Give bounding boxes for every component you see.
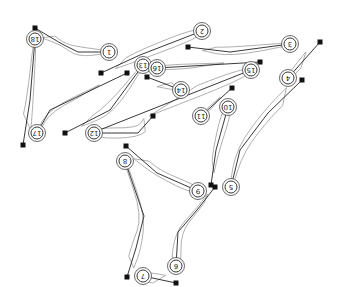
hole-number: 17 (33, 129, 42, 137)
hole-line-1 (35, 28, 109, 52)
green-hole-10: 10 (220, 99, 237, 116)
fairway-outline-hole-1 (42, 36, 109, 56)
tee-marker-13 (63, 131, 68, 136)
hole-line-13 (65, 65, 143, 133)
hole-number: 4 (285, 74, 290, 82)
green-hole-6: 6 (168, 258, 185, 275)
course-layout-svg: 123456789101112131415161718 (0, 0, 338, 287)
hole-number: 7 (141, 272, 145, 280)
tee-marker-5 (300, 78, 305, 83)
green-hole-2: 2 (194, 23, 211, 40)
hole-number: 5 (229, 183, 233, 191)
green-hole-3: 3 (282, 36, 299, 53)
golf-course-map: 123456789101112131415161718 (0, 0, 338, 287)
tee-markers (21, 26, 323, 286)
green-hole-14: 14 (173, 82, 190, 99)
green-hole-15: 15 (243, 62, 260, 79)
green-hole-12: 12 (86, 125, 103, 142)
tee-marker-10 (209, 183, 214, 188)
fairway-outline-hole-6 (172, 194, 207, 266)
tee-marker-16 (258, 60, 263, 65)
fairway-outline-hole-3 (203, 43, 291, 54)
hole-number: 15 (247, 66, 256, 74)
hole-number: 13 (139, 61, 148, 69)
tee-marker-11 (230, 86, 235, 91)
tee-marker-4 (318, 40, 323, 45)
green-hole-7: 7 (135, 268, 152, 285)
tee-marker-9 (124, 144, 129, 149)
hole-number: 10 (224, 103, 233, 111)
hole-number: 8 (123, 157, 127, 165)
hole-line-10 (211, 107, 228, 185)
hole-line-8 (125, 161, 144, 277)
hole-lines (23, 28, 320, 283)
green-hole-17: 17 (29, 125, 46, 142)
tee-marker-3 (186, 45, 191, 50)
hole-number: 6 (173, 262, 178, 270)
hole-number: 3 (288, 40, 292, 48)
green-hole-8: 8 (117, 153, 134, 170)
fairway-outline-hole-13 (82, 65, 144, 126)
green-hole-5: 5 (223, 179, 240, 196)
green-hole-4: 4 (280, 70, 297, 87)
hole-number: 18 (31, 35, 40, 43)
hole-number: 14 (176, 86, 185, 94)
tee-marker-18 (21, 143, 26, 148)
fairway-outline-hole-8 (125, 161, 144, 268)
green-hole-9: 9 (190, 183, 207, 200)
hole-number: 1 (107, 48, 111, 56)
fairway-outline-hole-10 (212, 107, 230, 173)
green-hole-1: 1 (101, 44, 118, 61)
green-hole-18: 18 (27, 31, 44, 48)
green-hole-16: 16 (149, 60, 166, 77)
hole-number: 16 (152, 64, 161, 72)
tee-marker-17 (125, 71, 130, 76)
hole-line-9 (126, 146, 198, 191)
tee-marker-2 (99, 71, 104, 76)
fairway-outline-hole-5 (231, 88, 287, 187)
tee-marker-7 (174, 281, 179, 286)
hole-number: 11 (197, 112, 206, 120)
tee-marker-8 (125, 275, 130, 280)
tee-marker-14 (145, 75, 150, 80)
hole-number: 9 (196, 187, 200, 195)
hole-number: 12 (90, 129, 99, 137)
hole-line-5 (231, 80, 302, 187)
tee-marker-1 (33, 26, 38, 31)
hole-number: 2 (200, 27, 204, 35)
green-hole-11: 11 (193, 108, 210, 125)
tee-marker-12 (151, 114, 156, 119)
